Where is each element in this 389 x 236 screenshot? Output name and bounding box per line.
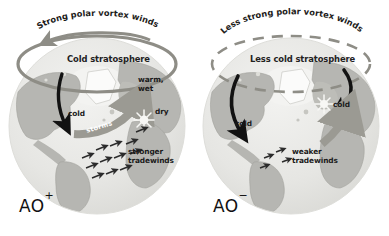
vortex-caption: Strong polar vortex winds: [35, 8, 161, 31]
cold-label-west: cold: [235, 120, 252, 128]
phase-label-text: AO: [213, 196, 239, 216]
starburst-icon: [134, 110, 154, 130]
phase-label-ao-positive: AO+: [19, 196, 54, 216]
stratosphere-label: Less cold stratosphere: [250, 55, 355, 64]
tradewinds-label: weaker tradewinds: [292, 148, 338, 165]
globe-stage-ao-negative: Less strong polar vortex winds: [194, 0, 389, 236]
stratosphere-label: Cold stratosphere: [67, 55, 150, 64]
globe-stage-ao-positive: Strong polar vortex winds: [0, 0, 195, 236]
phase-sign: +: [45, 189, 55, 202]
starburst-icon: [315, 95, 333, 113]
vortex-caption: Less strong polar vortex winds: [218, 6, 365, 36]
ao-comparison-figure: Strong polar vortex winds: [0, 0, 389, 236]
phase-label-text: AO: [19, 196, 45, 216]
cold-label-east: cold: [333, 101, 350, 109]
dry-label: dry: [155, 108, 168, 116]
phase-sign: −: [239, 189, 249, 202]
cold-label: cold: [68, 110, 85, 118]
panel-ao-negative: Less strong polar vortex winds: [194, 0, 389, 236]
panel-ao-positive: Strong polar vortex winds: [0, 0, 195, 236]
phase-label-ao-negative: AO−: [213, 196, 248, 216]
warm-wet-label: warm, wet: [138, 76, 163, 93]
tradewinds-label: stronger tradewinds: [128, 148, 174, 165]
